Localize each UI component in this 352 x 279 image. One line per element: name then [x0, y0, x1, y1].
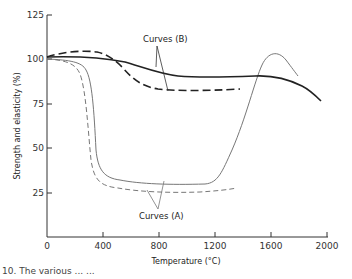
x-tick-1600: 1600	[260, 241, 283, 251]
curve-a-dashed	[47, 59, 237, 192]
y-axis-title: Strength and elasticity (%)	[13, 72, 22, 179]
x-tick-0: 0	[44, 241, 50, 251]
curves-a-leader-lines	[147, 181, 164, 209]
x-tick-labels: 0 400 800 1200 1600 2000	[44, 241, 339, 251]
curves-b-label: Curves (B)	[143, 34, 188, 44]
curves-a-label: Curves (A)	[139, 211, 184, 221]
y-tick-75: 75	[33, 99, 44, 109]
y-tick-25: 25	[33, 188, 44, 198]
curves-b-leader-lines	[156, 46, 168, 91]
y-tick-125: 125	[27, 10, 44, 20]
figure-caption: 10. The various ... ...	[2, 266, 95, 276]
y-tick-50: 50	[33, 143, 45, 153]
x-axis-title: Temperature (°C)	[150, 257, 220, 266]
curve-a-solid	[47, 54, 298, 185]
x-tick-2000: 2000	[316, 241, 339, 251]
x-tick-400: 400	[94, 241, 111, 251]
y-tick-100: 100	[27, 54, 44, 64]
x-ticks	[103, 232, 327, 237]
x-tick-1200: 1200	[204, 241, 227, 251]
y-ticks	[47, 15, 52, 193]
line-chart: 125 100 75 50 25 0 400 800 1200 1600 200…	[0, 0, 352, 279]
x-tick-800: 800	[150, 241, 167, 251]
curve-b-solid	[47, 57, 321, 101]
y-tick-labels: 125 100 75 50 25	[27, 10, 44, 198]
